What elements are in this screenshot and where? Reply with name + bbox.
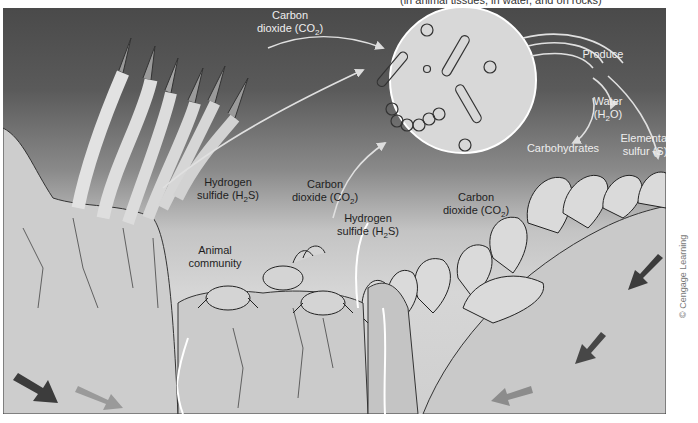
label-h2s-mid: Hydrogen sulfide (H2S) xyxy=(323,212,413,242)
copyright-notice: © Cengage Learning xyxy=(678,208,690,318)
label-h2s-left: Hydrogen sulfide (H2S) xyxy=(183,176,273,206)
label-co2-right: Carbon dioxide (CO2) xyxy=(431,191,521,221)
label-carbohydrates: Carbohydrates xyxy=(518,142,608,155)
diagram-artwork xyxy=(3,8,666,414)
label-produce: Produce xyxy=(568,48,638,61)
bacteria-magnified-circle xyxy=(375,8,536,153)
label-elemental-sulfur: Elemental sulfur (S) xyxy=(615,132,666,158)
caption-fragment: (in animal tissues, in water, and on roc… xyxy=(400,0,698,8)
hydrothermal-vent-diagram: Carbon dioxide (CO2) Produce Water (H2O)… xyxy=(3,8,666,414)
label-co2-top: Carbon dioxide (CO2) xyxy=(235,9,345,39)
label-water: Water (H2O) xyxy=(588,95,628,125)
label-co2-mid: Carbon dioxide (CO2) xyxy=(280,178,370,208)
right-sediment-mound xyxy=(423,206,666,414)
label-animal-community: Animal community xyxy=(180,244,250,270)
